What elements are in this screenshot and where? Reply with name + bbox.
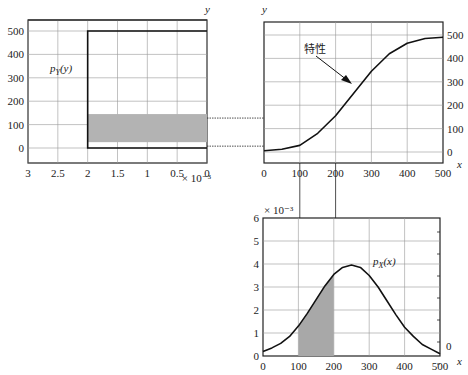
x-tick-label: 0	[261, 167, 267, 179]
x-tick-label: 0	[260, 360, 266, 372]
x-tick-label: 400	[399, 167, 416, 179]
y-tick-label: 100	[8, 119, 25, 131]
x-tick-label: 1.5	[111, 167, 125, 179]
y-tick-label: 0	[254, 350, 260, 362]
y-tick-label: 500	[447, 29, 464, 41]
y-multiplier-label: × 10⁻³	[264, 204, 294, 216]
x-tick-label: 300	[361, 360, 378, 372]
px-chart: 010020030040050065432100pX(x)× 10⁻³x	[254, 204, 463, 372]
y-tick-label: 0	[19, 142, 25, 154]
y-tick-label: 6	[254, 212, 260, 224]
x-multiplier-label: × 10⁻³	[182, 172, 212, 184]
y-tick-label: 5	[254, 235, 260, 247]
shaded-region	[88, 114, 207, 142]
x-tick-label: 200	[326, 360, 343, 372]
y-tick-label: 300	[8, 72, 25, 84]
y-tick-label: 500	[8, 25, 25, 37]
y-tick-label: 400	[447, 52, 464, 64]
characteristic-annotation: 特性	[304, 42, 326, 56]
y-tick-label: 1	[254, 327, 260, 339]
y-tick-label: 200	[8, 95, 25, 107]
y-axis-label: y	[261, 3, 267, 15]
transfer-chart: 01002003004005005004003002001000特性yx	[261, 3, 464, 179]
x-tick-label: 500	[435, 167, 452, 179]
y-tick-label: 2	[254, 304, 260, 316]
y-tick-label: 0	[447, 146, 453, 158]
x-tick-label: 2	[85, 167, 91, 179]
y-tick-label: 100	[447, 123, 464, 135]
x-tick-label: 400	[396, 360, 413, 372]
y-axis-label: y	[204, 3, 210, 15]
y-tick-label: 3	[254, 281, 260, 293]
x-tick-label: 1	[145, 167, 151, 179]
x-axis-label: x	[456, 158, 462, 170]
y-tick-label: 300	[447, 76, 464, 88]
y-tick-label: 4	[254, 258, 260, 270]
x-tick-label: 2.5	[51, 167, 65, 179]
y-tick-label: 200	[447, 99, 464, 111]
x-axis-label: x	[456, 355, 462, 367]
x-tick-label: 300	[363, 167, 380, 179]
y-tick-label: 400	[8, 48, 25, 60]
x-tick-label: 3	[25, 167, 31, 179]
x-tick-label: 100	[290, 360, 307, 372]
figure-canvas: 32.521.510.505004003002001000pY(y)y× 10⁻…	[0, 0, 468, 375]
right-tick-label: 0	[446, 340, 452, 352]
x-tick-label: 500	[432, 360, 449, 372]
py-chart: 32.521.510.505004003002001000pY(y)y× 10⁻…	[8, 3, 212, 184]
